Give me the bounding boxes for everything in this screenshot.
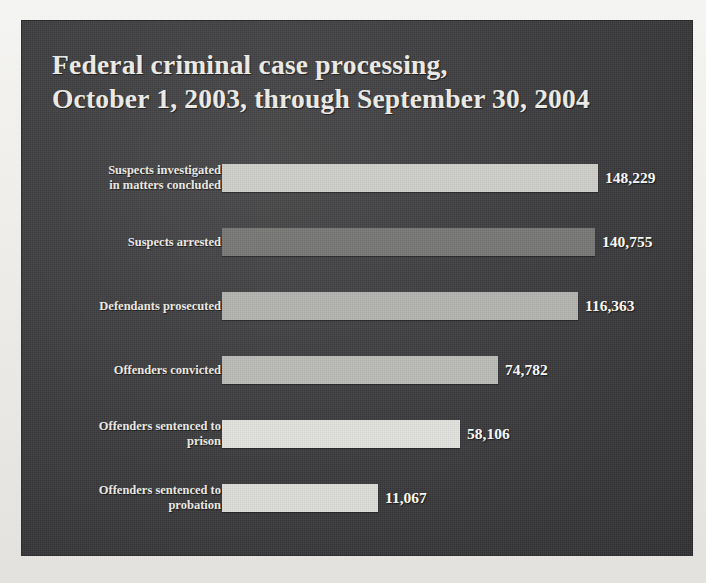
category-label: Offenders convicted bbox=[35, 363, 221, 378]
category-label-line-1: Offenders sentenced to bbox=[99, 419, 221, 433]
bar-defendants-prosecuted[interactable] bbox=[222, 292, 578, 320]
chart-title-line-1: Federal criminal case processing, bbox=[52, 48, 652, 82]
category-label-line-1: Offenders sentenced to bbox=[99, 483, 221, 497]
category-label: Offenders sentenced to probation bbox=[35, 483, 221, 513]
chart-title: Federal criminal case processing, Octobe… bbox=[52, 48, 652, 116]
bar-value-label: 58,106 bbox=[467, 425, 510, 443]
chart-row: Suspects arrested 140,755 bbox=[21, 224, 693, 260]
category-label-line-1: Offenders convicted bbox=[114, 363, 221, 377]
bar-offenders-convicted[interactable] bbox=[222, 356, 498, 384]
category-label: Offenders sentenced to prison bbox=[35, 419, 221, 449]
category-label-line-2: probation bbox=[35, 498, 221, 513]
bar-suspects-investigated[interactable] bbox=[222, 164, 598, 192]
chart-figure: Federal criminal case processing, Octobe… bbox=[0, 0, 706, 583]
bar-value-label: 116,363 bbox=[585, 297, 635, 315]
bar-suspects-arrested[interactable] bbox=[222, 228, 595, 256]
slide-panel: Federal criminal case processing, Octobe… bbox=[21, 20, 693, 556]
category-label: Suspects investigated in matters conclud… bbox=[35, 163, 221, 193]
category-label-line-1: Suspects arrested bbox=[128, 235, 221, 249]
bar-value-label: 148,229 bbox=[605, 169, 655, 187]
category-label-line-2: prison bbox=[35, 434, 221, 449]
bar-value-label: 74,782 bbox=[505, 361, 548, 379]
chart-row: Offenders convicted 74,782 bbox=[21, 352, 693, 388]
chart-row: Suspects investigated in matters conclud… bbox=[21, 160, 693, 196]
bar-offenders-sentenced-prison[interactable] bbox=[222, 420, 460, 448]
chart-row: Defendants prosecuted 116,363 bbox=[21, 288, 693, 324]
bar-value-label: 11,067 bbox=[385, 489, 427, 507]
chart-row: Offenders sentenced to probation 11,067 bbox=[21, 480, 693, 516]
category-label-line-1: Suspects investigated bbox=[108, 163, 221, 177]
chart-title-line-2: October 1, 2003, through September 30, 2… bbox=[52, 82, 652, 116]
bar-offenders-sentenced-probation[interactable] bbox=[222, 484, 378, 512]
category-label-line-1: Defendants prosecuted bbox=[99, 299, 221, 313]
category-label-line-2: in matters concluded bbox=[35, 178, 221, 193]
chart-row: Offenders sentenced to prison 58,106 bbox=[21, 416, 693, 452]
bar-chart-plot-area: Suspects investigated in matters conclud… bbox=[21, 160, 693, 544]
bar-value-label: 140,755 bbox=[602, 233, 652, 251]
category-label: Suspects arrested bbox=[35, 235, 221, 250]
category-label: Defendants prosecuted bbox=[35, 299, 221, 314]
